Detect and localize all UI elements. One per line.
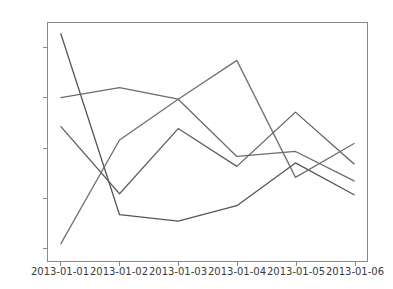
x-tick-mark bbox=[60, 262, 61, 266]
x-tick-mark bbox=[119, 262, 120, 266]
x-tick-mark bbox=[355, 262, 356, 266]
x-tick-mark bbox=[178, 262, 179, 266]
x-tick-label: 2013-01-01 bbox=[31, 266, 89, 277]
plot-axes bbox=[47, 22, 368, 262]
x-tick-label: 2013-01-06 bbox=[326, 266, 384, 277]
x-tick-label: 2013-01-05 bbox=[267, 266, 325, 277]
line-series-3 bbox=[61, 112, 354, 194]
line-chart-plot bbox=[48, 23, 367, 261]
x-tick-mark bbox=[296, 262, 297, 266]
x-tick-label: 2013-01-03 bbox=[149, 266, 207, 277]
x-tick-label: 2013-01-02 bbox=[90, 266, 148, 277]
x-tick-label: 2013-01-04 bbox=[208, 266, 266, 277]
x-tick-mark bbox=[237, 262, 238, 266]
chart-figure: 210−1−2 2013-01-012013-01-022013-01-0320… bbox=[0, 0, 393, 289]
line-series-4 bbox=[61, 60, 354, 243]
